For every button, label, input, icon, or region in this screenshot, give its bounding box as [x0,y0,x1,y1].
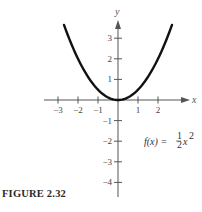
figure-caption: FIGURE 2.32 [2,188,66,199]
y-tick-label: −2 [102,136,112,146]
y-tick-label: 3 [108,33,113,43]
x-tick-label: −3 [53,105,63,115]
parabola-chart: −3−2−112 321−1−2−3−4 x y f(x) = 1 2 x 2 [0,0,202,212]
function-variable: x [182,136,188,147]
y-tick-labels: 321−1−2−3−4 [102,33,112,187]
x-axis-arrow-icon [181,97,190,103]
x-tick-label: −1 [93,105,103,115]
y-tick-label: −4 [102,177,112,187]
function-exponent: 2 [189,130,194,141]
y-tick-label: 1 [108,74,113,84]
y-axis-arrow-icon [115,20,121,29]
y-axis-label: y [114,6,120,17]
y-tick-label: −1 [102,116,112,126]
x-axis-label: x [191,94,197,105]
function-prefix: f(x) = [144,136,167,148]
x-tick-label: −2 [73,105,83,115]
svg-text:f(x) =: f(x) = [144,136,167,148]
x-tick-label: 1 [136,105,141,115]
x-tick-labels: −3−2−112 [53,105,160,115]
y-tick-label: −3 [102,157,112,167]
function-label: f(x) = 1 2 x 2 [144,130,194,150]
axes [44,26,184,197]
x-tick-label: 2 [156,105,161,115]
y-tick-label: 2 [108,54,113,64]
fraction-denominator: 2 [177,139,182,150]
